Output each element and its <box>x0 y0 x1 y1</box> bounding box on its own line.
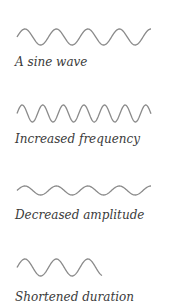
wave-path-shortened-duration <box>17 259 102 276</box>
caption-increased-frequency: Increased frequency <box>15 132 140 146</box>
caption-decreased-amplitude: Decreased amplitude <box>15 208 144 222</box>
wave-path-decreased-amplitude <box>17 186 151 195</box>
wave-path-sine <box>17 29 151 45</box>
sine-wave-original <box>0 0 169 303</box>
caption-shortened-duration: Shortened duration <box>15 290 134 303</box>
caption-sine-wave: A sine wave <box>15 55 87 69</box>
wave-path-increased-frequency <box>17 105 151 122</box>
